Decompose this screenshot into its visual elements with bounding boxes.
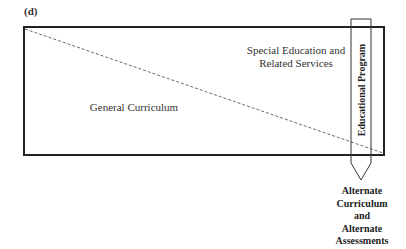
educational-program-label: Educational Program [356,44,367,136]
outcome-line5: Assessments [324,235,400,248]
special-education-line2: Related Services [236,57,356,70]
panel-label: (d) [24,5,37,18]
general-curriculum-label: General Curriculum [74,101,194,114]
outcome-line3: and [324,210,400,223]
special-education-line1: Special Education and [236,44,356,57]
alternate-outcome-label: Alternate Curriculum and Alternate Asses… [324,185,400,248]
outcome-line2: Curriculum [324,198,400,211]
special-education-label: Special Education and Related Services [236,44,356,70]
outcome-line1: Alternate [324,185,400,198]
outcome-line4: Alternate [324,223,400,236]
